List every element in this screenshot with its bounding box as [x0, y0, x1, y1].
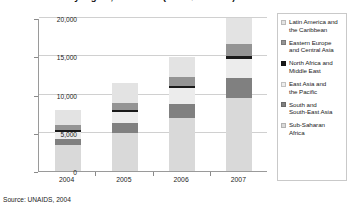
- y-axis-tick-label: 0: [73, 169, 77, 176]
- legend-item[interactable]: Sub-SaharanAfrica: [281, 121, 343, 136]
- bar-segment: [169, 118, 195, 171]
- bar-column-2005: [112, 83, 138, 171]
- y-axis-tick-label: 20,000: [57, 16, 77, 23]
- x-axis-tick-mark: [153, 172, 154, 176]
- bar-segment: [226, 78, 252, 98]
- y-axis-tick-label: 5,000: [60, 130, 77, 137]
- bar-segment: [226, 44, 252, 55]
- legend-label-line: Middle East: [289, 67, 333, 75]
- x-axis-tick-mark: [210, 172, 211, 176]
- legend-label-line: Eastern Europe: [289, 39, 334, 47]
- legend-swatch-icon: [281, 40, 286, 45]
- legend-swatch-icon: [281, 102, 286, 107]
- legend-label-line: Sub-Saharan: [289, 121, 325, 129]
- y-axis-tick-label: 15,000: [57, 54, 77, 61]
- legend-label: East Asia andthe Pacific: [289, 80, 326, 95]
- x-axis-tick-label: 2006: [151, 176, 211, 183]
- chart-legend: Latin America andthe CaribbeanEastern Eu…: [277, 13, 347, 181]
- bar-segment: [112, 123, 138, 133]
- legend-label-line: Africa: [289, 129, 325, 137]
- y-axis-tick-mark: [34, 57, 38, 58]
- legend-item[interactable]: South andSouth-East Asia: [281, 101, 343, 116]
- legend-label-line: the Caribbean: [289, 26, 338, 34]
- legend-item[interactable]: East Asia andthe Pacific: [281, 80, 343, 95]
- legend-label-line: East Asia and: [289, 80, 326, 88]
- x-axis-tick-label: 2005: [94, 176, 154, 183]
- legend-label: Sub-SaharanAfrica: [289, 121, 325, 136]
- x-axis-tick-label: 2007: [208, 176, 268, 183]
- legend-label-line: North Africa and: [289, 59, 333, 67]
- bar-segment: [112, 83, 138, 103]
- legend-swatch-icon: [281, 123, 286, 128]
- bar-segment: [226, 59, 252, 78]
- y-axis-tick-mark: [34, 172, 38, 173]
- x-axis-tick-mark: [95, 172, 96, 176]
- bar-segment: [169, 77, 195, 86]
- bar-segment: [112, 103, 138, 110]
- bar-segment: [226, 98, 252, 171]
- chart-title: by region, 2004-2007 (in US$ millions): [34, 0, 270, 2]
- bar-segment: [169, 104, 195, 119]
- legend-label-line: South and: [289, 101, 332, 109]
- legend-label-line: Latin America and: [289, 18, 338, 26]
- y-axis-tick-label: 10,000: [57, 92, 77, 99]
- bar-column-2007: [226, 18, 252, 171]
- source-note: Source: UNAIDS, 2004: [3, 196, 71, 203]
- bar-segment: [112, 112, 138, 123]
- bar-segment: [226, 18, 252, 44]
- legend-item[interactable]: North Africa andMiddle East: [281, 59, 343, 74]
- legend-label: North Africa andMiddle East: [289, 59, 333, 74]
- bar-column-2004: [55, 110, 81, 171]
- legend-swatch-icon: [281, 20, 286, 25]
- legend-label-line: South-East Asia: [289, 108, 332, 116]
- chart-figure: by region, 2004-2007 (in US$ millions) 0…: [0, 0, 349, 211]
- bar-segment: [169, 88, 195, 103]
- legend-item[interactable]: Eastern Europeand Central Asia: [281, 39, 343, 54]
- y-axis-tick-mark: [34, 134, 38, 135]
- legend-label: South andSouth-East Asia: [289, 101, 332, 116]
- bar-column-2006: [169, 57, 195, 171]
- bar-segment: [55, 110, 81, 126]
- bar-segment: [55, 145, 81, 171]
- legend-swatch-icon: [281, 82, 286, 87]
- legend-label: Eastern Europeand Central Asia: [289, 39, 334, 54]
- legend-label: Latin America andthe Caribbean: [289, 18, 338, 33]
- legend-item[interactable]: Latin America andthe Caribbean: [281, 18, 343, 33]
- y-axis-tick-mark: [34, 96, 38, 97]
- bar-segment: [169, 57, 195, 77]
- legend-swatch-icon: [281, 61, 286, 66]
- legend-label-line: and Central Asia: [289, 46, 334, 54]
- bar-segment: [112, 133, 138, 171]
- y-axis-tick-mark: [34, 19, 38, 20]
- x-axis-tick-label: 2004: [37, 176, 97, 183]
- legend-label-line: the Pacific: [289, 88, 326, 96]
